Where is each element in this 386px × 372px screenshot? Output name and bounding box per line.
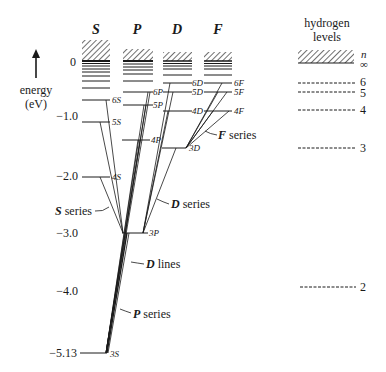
energy-axis: energy (eV) xyxy=(20,49,52,111)
label-6p: 6P xyxy=(153,87,164,97)
label-5s: 5S xyxy=(112,117,122,127)
f-levels xyxy=(204,83,232,111)
column-header-p: P xyxy=(133,22,142,37)
column-header-s: S xyxy=(92,22,100,37)
column-header-d: D xyxy=(171,22,182,37)
tick-3: −3.0 xyxy=(56,226,78,240)
tick-0: 0 xyxy=(70,55,76,69)
hydrogen-label-5: 5 xyxy=(360,86,366,100)
annotation-p-series: P series xyxy=(133,307,171,321)
series-annotations: S series D series D lines P series F ser… xyxy=(55,128,257,321)
label-4s: 4S xyxy=(112,172,122,182)
label-4f: 4F xyxy=(234,106,245,116)
annotation-f-series: F series xyxy=(217,128,257,142)
label-6s: 6S xyxy=(112,95,122,105)
annotation-s-series: S series xyxy=(55,204,92,218)
label-5f: 5F xyxy=(234,87,245,97)
axis-label-energy: energy xyxy=(20,83,52,97)
label-5d: 5D xyxy=(192,87,204,97)
column-header-f: F xyxy=(212,22,223,37)
leader-d-lines-icon xyxy=(131,262,144,264)
tick-1: −1.0 xyxy=(56,109,78,123)
annotation-d-lines: D lines xyxy=(145,257,181,271)
arrow-head-icon xyxy=(32,49,40,58)
hydrogen-subtitle: levels xyxy=(313,30,341,44)
tick-5: −5.13 xyxy=(49,346,77,360)
sodium-energy-level-diagram: energy (eV) 0 −1.0 −2.0 −3.0 −4.0 −5.13 … xyxy=(0,0,386,372)
continuum-d xyxy=(163,52,192,61)
hydrogen-label-4: 4 xyxy=(360,103,366,117)
label-5p: 5P xyxy=(153,100,164,110)
s-levels xyxy=(80,100,110,353)
leader-f-series-icon xyxy=(205,131,217,135)
leader-d-series-icon xyxy=(157,199,169,204)
tick-4: −4.0 xyxy=(56,284,78,298)
leader-p-series-icon xyxy=(120,309,131,313)
label-4d: 4D xyxy=(192,106,204,116)
label-3p: 3P xyxy=(148,228,160,238)
high-n-levels xyxy=(82,61,232,88)
continuum-regions xyxy=(82,40,232,61)
hydrogen-label-3: 3 xyxy=(360,141,366,155)
leader-s-series-icon xyxy=(95,207,109,211)
p-levels xyxy=(122,92,153,233)
hydrogen-title: hydrogen xyxy=(304,16,349,30)
continuum-s xyxy=(82,40,110,61)
continuum-f xyxy=(204,52,232,61)
annotation-d-series: D series xyxy=(170,197,210,211)
hydrogen-continuum xyxy=(298,50,354,63)
column-headers: S P D F xyxy=(92,22,223,37)
continuum-p xyxy=(123,49,153,61)
f-level-labels: 6F 5F 4F xyxy=(234,78,245,116)
hydrogen-levels: hydrogen levels n ∞ 6 5 4 3 2 xyxy=(298,16,368,294)
label-3s: 3S xyxy=(109,349,120,359)
axis-label-unit: (eV) xyxy=(25,97,47,111)
d-levels xyxy=(162,83,192,148)
hydrogen-label-2: 2 xyxy=(360,280,366,294)
tick-2: −2.0 xyxy=(56,169,78,183)
hydrogen-infinity-label: ∞ xyxy=(360,58,368,70)
